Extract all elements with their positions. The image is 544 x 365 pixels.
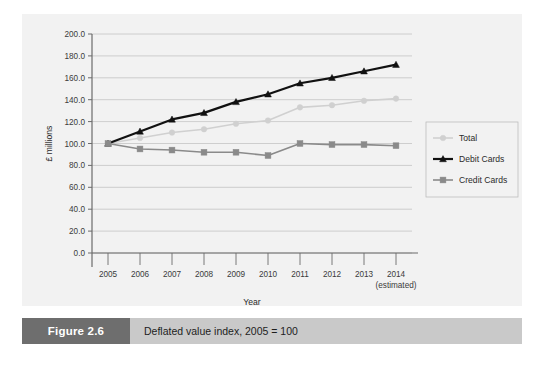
data-point-marker [169,130,175,136]
y-axis-title: £ millions [44,126,54,162]
y-axis-tick-label: 80.0 [69,161,85,170]
series-line [108,144,396,156]
data-point-marker [297,141,303,147]
x-axis-estimated-note: (estimated) [376,281,417,290]
data-point-marker [265,153,271,159]
data-point-marker [297,105,303,111]
data-point-marker [137,135,143,141]
y-axis-tick-label: 20.0 [69,227,85,236]
series-total [105,96,399,146]
y-axis-tick-label: 160.0 [65,74,86,83]
data-point-marker [361,142,367,148]
y-axis-tick-label: 140.0 [65,96,86,105]
line-chart-svg: 0.020.040.060.080.0100.0120.0140.0160.01… [22,14,522,306]
x-axis-tick-label: 2005 [99,270,118,279]
data-point-marker [440,135,446,141]
x-axis-labels: 2005200620072008200920102011201220132014… [99,253,417,290]
y-axis-tick-label: 200.0 [65,30,86,39]
legend-label: Debit Cards [459,154,504,164]
chart-legend: TotalDebit CardsCredit Cards [426,122,518,197]
legend-label: Credit Cards [459,175,507,185]
chart-panel: 0.020.040.060.080.0100.0120.0140.0160.01… [22,14,522,306]
x-axis-tick-label: 2006 [131,270,150,279]
data-point-marker [265,118,271,124]
y-axis-tick-label: 100.0 [65,140,86,149]
data-point-marker [169,147,175,153]
data-point-marker [137,146,143,152]
data-point-marker [329,142,335,148]
data-point-marker [201,149,207,155]
data-point-marker [393,96,399,102]
figure-number-label: Figure 2.6 [22,318,130,344]
data-point-marker [233,121,239,127]
figure-caption-bar: Figure 2.6 Deflated value index, 2005 = … [22,318,522,344]
x-axis-tick-label: 2014 [387,270,406,279]
y-axis-tick-label: 0.0 [74,249,86,258]
figure-caption-text: Deflated value index, 2005 = 100 [130,318,522,344]
data-point-marker [233,149,239,155]
x-axis-tick-label: 2007 [163,270,182,279]
data-point-marker [361,98,367,104]
x-axis-tick-label: 2009 [227,270,246,279]
y-axis-tick-label: 180.0 [65,52,86,61]
data-point-marker [105,141,111,147]
x-axis-title: Year [243,297,261,306]
series-line [108,99,396,144]
x-axis-tick-label: 2013 [355,270,374,279]
series-line [108,65,396,144]
x-axis-tick-label: 2011 [291,270,309,279]
data-point-marker [201,126,207,132]
legend-label: Total [459,133,477,143]
x-axis-tick-label: 2012 [323,270,342,279]
data-point-marker [329,102,335,108]
series-debit-cards [105,61,400,146]
y-axis-tick-label: 60.0 [69,183,85,192]
x-axis-tick-label: 2008 [195,270,214,279]
x-axis-tick-label: 2010 [259,270,278,279]
data-point-marker [440,177,446,183]
y-axis-tick-label: 40.0 [69,205,85,214]
data-point-marker [393,143,399,149]
figure-container: 0.020.040.060.080.0100.0120.0140.0160.01… [0,0,544,365]
y-axis-tick-label: 120.0 [65,118,86,127]
